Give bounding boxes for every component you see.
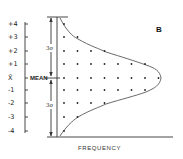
frequency-dot <box>77 102 79 104</box>
frequency-dot <box>63 23 65 25</box>
frequency-dot <box>131 77 133 79</box>
frequency-dot <box>104 50 106 52</box>
frequency-dot <box>144 77 146 79</box>
frequency-dot <box>63 116 65 118</box>
frequency-dot <box>63 50 65 52</box>
frequency-dot <box>77 63 79 65</box>
frequency-dot <box>104 89 106 91</box>
tick-label: -1 <box>8 86 14 94</box>
frequency-dot <box>90 77 92 79</box>
frequency-dot <box>104 77 106 79</box>
frequency-dot <box>90 102 92 104</box>
frequency-dot <box>131 89 133 91</box>
lower-sigma-label: 3σ <box>46 102 53 108</box>
frequency-dot <box>117 89 119 91</box>
frequency-dot <box>77 77 79 79</box>
frequency-dot <box>77 36 79 38</box>
tick-label: -4 <box>8 127 14 135</box>
frequency-dot <box>104 63 106 65</box>
arrow-down-icon <box>49 72 52 77</box>
tick-label: +4 <box>8 20 18 28</box>
arrow-up-icon <box>49 80 52 85</box>
frequency-dot <box>90 89 92 91</box>
frequency-dot <box>77 116 79 118</box>
x-axis-title: FREQUENCY <box>78 145 121 151</box>
frequency-dot <box>131 63 133 65</box>
frequency-dot <box>117 63 119 65</box>
arrow-up-icon <box>49 18 52 23</box>
frequency-dot <box>144 63 146 65</box>
frequency-dot <box>104 102 106 104</box>
tick-label: X̄ <box>8 74 13 82</box>
tick-label: +2 <box>8 47 18 55</box>
frequency-dot <box>63 102 65 104</box>
frequency-dot <box>77 50 79 52</box>
frequency-dot <box>144 89 146 91</box>
frequency-dot <box>158 77 160 79</box>
frequency-dots <box>63 23 159 132</box>
tick-label: -2 <box>8 99 14 107</box>
frequency-dot <box>90 50 92 52</box>
tick-label: +3 <box>8 33 18 41</box>
tick-label: +1 <box>8 60 18 68</box>
panel-label: B <box>156 25 162 34</box>
distribution-curve <box>60 18 161 136</box>
frequency-dot <box>90 63 92 65</box>
frequency-dot <box>77 89 79 91</box>
arrow-down-icon <box>49 132 52 137</box>
frequency-dot <box>63 36 65 38</box>
tick-label: -3 <box>8 113 14 121</box>
frequency-dot <box>63 89 65 91</box>
frequency-dot <box>63 130 65 132</box>
frequency-dot <box>117 77 119 79</box>
normal-distribution-diagram: B +4+3+2+1X̄-1-2-3-4 MEAN 3σ 3σ FREQUENC… <box>0 0 183 159</box>
upper-sigma-label: 3σ <box>46 45 53 51</box>
frequency-dot <box>63 77 65 79</box>
frequency-dot <box>63 63 65 65</box>
